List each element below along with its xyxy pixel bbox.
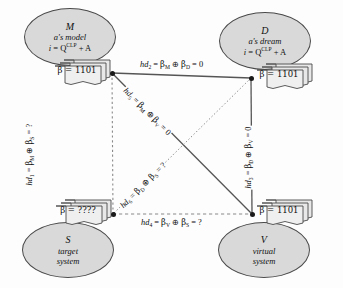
edge-label-hd4: hd4 = βV ⊕ βS = ?: [140, 218, 203, 227]
doc-stack-s[interactable]: β = ????: [51, 198, 115, 222]
edge-label-hd1-opb: β: [24, 140, 34, 145]
node-equation-d-tail: + A: [274, 47, 287, 57]
edge-label-hd3-subb: V: [248, 140, 254, 144]
edge-label-hd2-result: 0: [199, 60, 203, 69]
edge-label-hd3-index: 3: [248, 177, 254, 180]
doc-label-s: β = ????: [55, 205, 101, 215]
doc-label-m: β = 1101: [54, 65, 100, 75]
edge-label-hd1: hd1 = βM ⊕ βS = ?: [25, 123, 34, 187]
node-subtitle-s-line2: system: [57, 256, 80, 266]
edge-hd1-line: [112, 73, 113, 214]
edge-label-hd1-op: ⊕: [25, 147, 34, 154]
node-equation-m-tail: + A: [79, 43, 92, 53]
edge-label-hd1-subb: S: [29, 137, 35, 140]
vertex-dot-s: [111, 212, 116, 217]
node-equation-d-sup: CLP: [261, 46, 271, 52]
doc-stack-d[interactable]: β = 1101: [252, 62, 316, 86]
vertex-dot-m: [110, 71, 115, 76]
doc-stack-v[interactable]: β = 1101: [252, 198, 316, 222]
vertex-dot-d: [249, 76, 254, 81]
doc-beta-v: β = 1101: [259, 205, 298, 215]
edge-label-hd1-suba: M: [29, 156, 35, 161]
edge-label-hd4-result: ?: [198, 218, 202, 227]
doc-beta-m: β = 1101: [57, 65, 96, 75]
edge-label-hd5-index: 5: [127, 95, 133, 101]
node-equation-m: i = QCLP + A: [49, 42, 92, 53]
edge-label-hd2: hd2 = βM ⊕ βD = 0: [139, 60, 204, 69]
diagram-canvas: M a's model i = QCLP + A D a's dream i =…: [0, 0, 343, 288]
node-equation-m-sup: CLP: [66, 42, 76, 48]
edge-label-hd2-op: ⊕: [172, 60, 179, 69]
node-equation-d-lhs: i: [244, 47, 246, 57]
node-ellipse-s[interactable]: S target system: [22, 222, 114, 278]
doc-beta-d: β = 1101: [259, 69, 298, 79]
node-equation-m-lhs: i: [49, 43, 51, 53]
doc-label-v: β = 1101: [256, 205, 302, 215]
edge-label-hd2-suba: M: [165, 64, 170, 70]
node-subtitle-d: a's dream: [249, 36, 282, 46]
doc-beta-s: β = ????: [60, 205, 96, 215]
edge-label-hd1-name: hd: [25, 177, 34, 185]
node-equation-d: i = QCLP + A: [244, 46, 287, 57]
node-ellipse-v[interactable]: V virtual system: [218, 222, 310, 278]
edge-label-hd3-op: ⊕: [244, 151, 253, 158]
edge-label-hd4-suba: V: [166, 222, 170, 228]
edge-label-hd2-subb: D: [186, 64, 190, 70]
edge-hd2-line: [112, 73, 251, 78]
edge-label-hd4-subb: S: [186, 222, 189, 228]
vertex-dot-v: [250, 212, 255, 217]
edge-label-hd3: hd3 = βD ⊕ βV = 0: [244, 125, 253, 189]
edge-label-hd2-index: 2: [148, 64, 151, 70]
node-letter-d: D: [261, 25, 268, 37]
edge-label-hd4-op: ⊕: [172, 218, 179, 227]
node-subtitle-v-line1: virtual: [253, 246, 276, 256]
node-subtitle-m: a's model: [54, 32, 86, 42]
edge-label-hd1-result: ?: [25, 124, 34, 128]
edge-label-hd3-suba: D: [248, 160, 254, 164]
doc-label-d: β = 1101: [256, 69, 302, 79]
edge-label-hd3-opb: β: [243, 144, 253, 149]
edge-label-hd1-index: 1: [29, 174, 35, 177]
node-subtitle-s-line1: target: [58, 246, 78, 256]
edge-label-hd3-name: hd: [244, 180, 253, 188]
edge-label-hd3-opa: β: [243, 164, 253, 169]
edge-label-hd3-result: 0: [244, 126, 253, 130]
edge-label-hd4-index: 4: [149, 222, 152, 228]
doc-stack-m[interactable]: β = 1101: [50, 58, 114, 82]
node-letter-v: V: [261, 234, 267, 246]
edge-label-hd1-opa: β: [24, 161, 34, 166]
node-letter-s: S: [65, 234, 70, 246]
node-subtitle-v-line2: system: [253, 256, 276, 266]
node-letter-m: M: [66, 21, 75, 33]
